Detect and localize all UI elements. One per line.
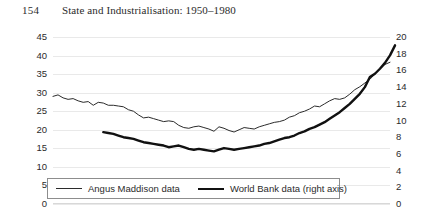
right-axis-tick-label: 6: [396, 149, 401, 159]
page-canvas: 154 State and Industrialisation: 1950–19…: [0, 0, 433, 221]
right-axis-tick-label: 12: [396, 99, 407, 109]
left-axis: 454035302520151050: [18, 24, 47, 221]
page-number: 154: [22, 4, 39, 16]
x-axis-tick-labels: [53, 218, 390, 221]
legend-label: World Bank data (right axis): [230, 183, 347, 194]
left-axis-tick-label: 30: [36, 88, 47, 98]
left-axis-tick-label: 0: [42, 199, 47, 209]
right-axis-tick-label: 4: [396, 166, 401, 176]
legend-swatch-thin-icon: [56, 188, 82, 189]
right-axis-tick-label: 10: [396, 116, 407, 126]
right-axis: 20181614121086420: [396, 24, 426, 221]
right-axis-tick-label: 18: [396, 49, 407, 59]
right-axis-tick-label: 16: [396, 65, 407, 75]
left-axis-tick-label: 45: [36, 32, 47, 42]
legend-swatch-thick-icon: [198, 188, 224, 190]
left-axis-tick-label: 25: [36, 106, 47, 116]
left-axis-tick-label: 10: [36, 162, 47, 172]
legend-label: Angus Maddison data: [88, 183, 180, 194]
series-line-world-bank: [103, 45, 395, 151]
right-axis-tick-label: 0: [396, 199, 401, 209]
legend-item-world-bank: World Bank data (right axis): [198, 179, 347, 198]
series-line-angus-maddison: [53, 62, 390, 132]
left-axis-tick-label: 35: [36, 69, 47, 79]
left-axis-tick-label: 15: [36, 143, 47, 153]
running-header: 154 State and Industrialisation: 1950–19…: [0, 4, 433, 20]
legend-item-angus-maddison: Angus Maddison data: [56, 179, 180, 198]
header-title: State and Industrialisation: 1950–1980: [62, 4, 236, 16]
right-axis-tick-label: 2: [396, 182, 401, 192]
right-axis-tick-label: 20: [396, 32, 407, 42]
gridline: [53, 204, 390, 205]
right-axis-tick-label: 8: [396, 132, 401, 142]
left-axis-tick-label: 20: [36, 125, 47, 135]
left-axis-tick-label: 40: [36, 51, 47, 61]
right-axis-tick-label: 14: [396, 82, 407, 92]
chart-figure: 454035302520151050 20181614121086420 Ang…: [0, 24, 433, 221]
chart-legend: Angus Maddison data World Bank data (rig…: [47, 178, 340, 199]
